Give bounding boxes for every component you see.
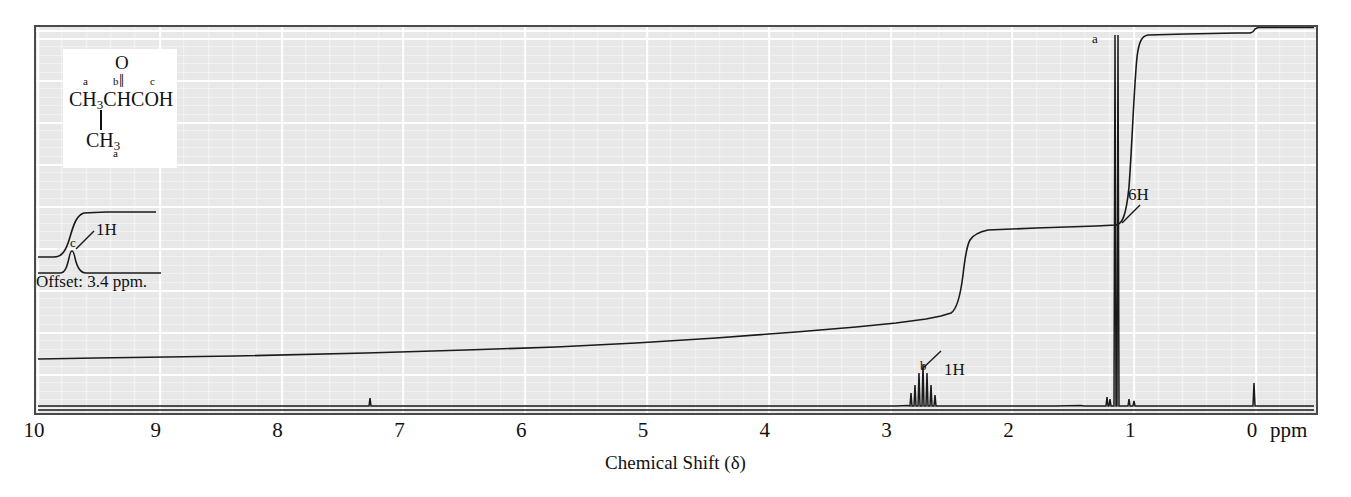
peak-label-a: a <box>1092 31 1098 47</box>
offset-note: Offset: 3.4 ppm. <box>36 272 147 292</box>
x-tick-10: 10 <box>24 418 45 443</box>
peak-label-c: c <box>70 235 76 251</box>
structure-inset: O ‖ a b c CH3CHCOH CH3 a <box>63 49 177 168</box>
structure-label-a-top: a <box>83 75 88 87</box>
structure-label-c-top: c <box>150 75 155 87</box>
integration-label-1h-c: 1H <box>96 220 117 240</box>
x-axis-ticks: 109876543210 <box>0 418 1351 448</box>
x-tick-2: 2 <box>1003 418 1014 443</box>
integration-trace <box>38 28 1314 360</box>
integration-label-1h-b: 1H <box>944 360 965 380</box>
integration-label-6h: 6H <box>1128 185 1149 205</box>
x-tick-0: 0 <box>1247 418 1258 443</box>
peak-label-b: b <box>920 358 927 374</box>
main-chain-pre: CH <box>69 88 97 110</box>
structure-label-b-top: b <box>113 75 119 87</box>
leader-line-1h-c <box>76 231 94 249</box>
plot-area: a 6H b 1H c 1H <box>34 25 1318 415</box>
x-tick-4: 4 <box>760 418 771 443</box>
spectrum-traces <box>36 27 1316 413</box>
offset-peak-trace <box>38 251 161 273</box>
branch-pre: CH <box>86 129 114 151</box>
x-tick-9: 9 <box>151 418 162 443</box>
single-bond-icon <box>100 110 102 130</box>
x-tick-8: 8 <box>272 418 283 443</box>
oxygen-atom-label: O <box>115 53 129 72</box>
main-chain-post: CHCOH <box>103 88 173 110</box>
x-tick-6: 6 <box>516 418 527 443</box>
x-tick-1: 1 <box>1125 418 1136 443</box>
structure-label-a-bottom: a <box>113 147 118 159</box>
structure-main-chain: CH3CHCOH <box>69 88 173 113</box>
x-tick-5: 5 <box>638 418 649 443</box>
ppm-unit-label: ppm <box>1270 418 1307 443</box>
double-bond-icon: ‖ <box>119 73 123 89</box>
x-tick-7: 7 <box>394 418 405 443</box>
x-tick-3: 3 <box>881 418 892 443</box>
x-axis-title: Chemical Shift (δ) <box>0 452 1351 474</box>
nmr-spectrum-figure: a 6H b 1H c 1H O ‖ a b c CH3CHCOH CH3 a … <box>0 0 1351 497</box>
